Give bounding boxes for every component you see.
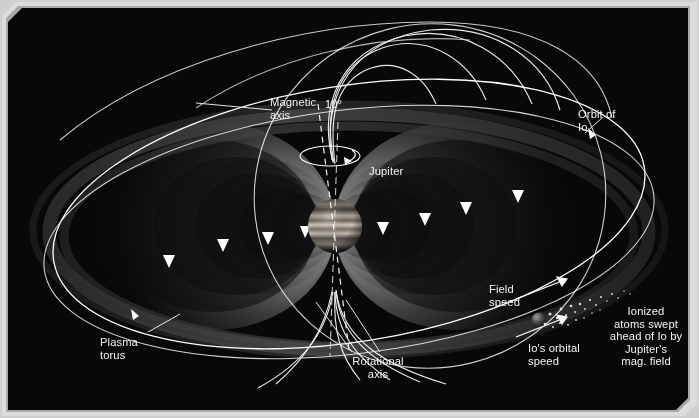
io-moon [532, 313, 547, 328]
figure-container: Magnetic axis 10° Jupiter Orbit of Io Fi… [0, 0, 699, 418]
label-io-orbital-speed: Io's orbital speed [528, 342, 580, 367]
label-field-speed: Field speed [489, 283, 520, 308]
label-ionized-atoms: Ionized atoms swept ahead of Io by Jupit… [600, 305, 692, 368]
label-jupiter: Jupiter [369, 165, 403, 178]
label-magnetic-axis: Magnetic axis [270, 96, 316, 121]
label-orbit-of-io: Orbit of Io [578, 108, 615, 133]
label-plasma-torus: Plasma torus [100, 336, 138, 361]
label-rotational-axis: Rotational axis [336, 355, 420, 380]
jupiter-planet [308, 199, 362, 253]
label-tilt-angle: 10° [325, 98, 342, 111]
